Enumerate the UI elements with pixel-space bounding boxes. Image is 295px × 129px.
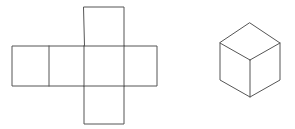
net-face-front-left xyxy=(49,46,84,86)
figure-canvas xyxy=(0,0,295,129)
isometric-cube-group xyxy=(220,23,280,97)
geometry-figure-svg xyxy=(0,0,295,129)
net-face-front-right xyxy=(84,46,124,86)
cube-net-group xyxy=(12,7,157,124)
net-face-top xyxy=(84,7,124,47)
net-face-left xyxy=(12,46,49,86)
net-face-bottom xyxy=(84,86,124,124)
net-face-right xyxy=(124,46,157,86)
